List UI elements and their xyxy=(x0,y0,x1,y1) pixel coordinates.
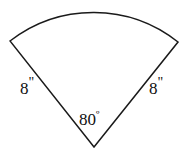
right-radius-unit-icon: " xyxy=(158,75,164,90)
right-radius-label: 8" xyxy=(149,80,163,97)
geometry-figure-canvas: 8" 8" 80º xyxy=(0,0,190,155)
left-radius-unit-icon: " xyxy=(29,75,35,90)
apex-angle-value: 80 xyxy=(79,110,96,129)
left-radius-label: 8" xyxy=(20,80,34,97)
degree-symbol-icon: º xyxy=(96,108,99,120)
right-radius-value: 8 xyxy=(149,79,158,98)
left-radius-value: 8 xyxy=(20,79,29,98)
apex-angle-label: 80º xyxy=(79,111,99,128)
